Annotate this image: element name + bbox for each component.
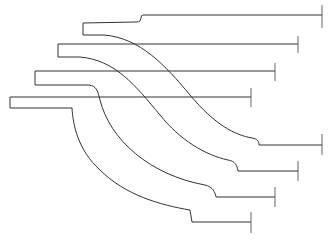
profile-4-outline — [10, 97, 251, 222]
profile-diagram — [0, 0, 331, 241]
profile-3 — [35, 63, 275, 207]
profile-1-upper-line — [83, 15, 322, 145]
profile-2 — [58, 36, 298, 181]
profile-2-outline — [58, 44, 298, 171]
profile-4 — [10, 88, 251, 233]
profile-1 — [83, 5, 322, 155]
